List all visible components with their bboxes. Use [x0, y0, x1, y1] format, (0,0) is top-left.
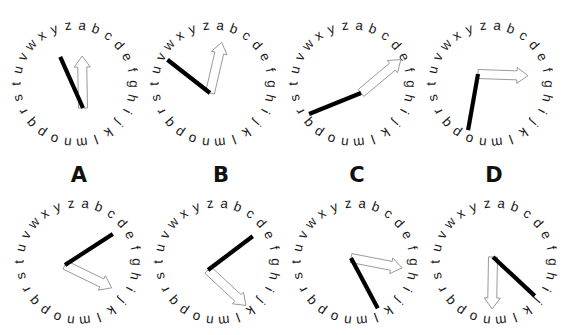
ring-letter-z: z	[202, 18, 211, 34]
ring-letter-z: z	[206, 196, 215, 212]
white-arrow-hand	[484, 257, 500, 309]
ring-letter-d: d	[530, 215, 546, 231]
ring-letter-n: n	[340, 135, 349, 151]
ring-letter-u: u	[429, 242, 445, 253]
ring-letter-f: f	[544, 244, 560, 251]
ring-letter-s: s	[152, 271, 168, 281]
figure-canvas: abcdefghijklmnopqrstuvwxyzabcdefghijklmn…	[0, 0, 568, 335]
ring-letter-d: d	[391, 215, 407, 231]
clock-option-C[interactable]: abcdefghijklmnopqrstuvwxyz	[274, 181, 436, 335]
ring-letter-e: e	[534, 50, 551, 64]
ring-letter-d: d	[114, 215, 130, 231]
ring-letter-x: x	[450, 27, 464, 43]
ring-letter-l: l	[234, 310, 242, 325]
letter-ring: abcdefghijklmnopqrstuvwxyz	[286, 18, 419, 151]
ring-letter-t: t	[286, 82, 301, 86]
ring-letter-y: y	[328, 199, 340, 216]
ring-letter-p: p	[311, 124, 326, 141]
ring-letter-t: t	[151, 260, 166, 264]
ring-letter-z: z	[64, 18, 73, 34]
ring-letter-o: o	[186, 131, 198, 148]
ring-letter-x: x	[35, 27, 49, 43]
ring-letter-x: x	[177, 205, 191, 221]
black-hand	[167, 60, 210, 93]
ring-letter-d: d	[111, 37, 127, 53]
ring-letter-o: o	[48, 131, 60, 148]
ring-letter-d: d	[526, 37, 542, 53]
ring-letter-s: s	[425, 93, 441, 103]
ring-letter-t: t	[9, 82, 24, 86]
ring-letter-q: q	[23, 115, 39, 131]
ring-letter-k: k	[516, 124, 530, 140]
ring-letter-u: u	[13, 242, 29, 253]
ring-letter-v: v	[18, 228, 35, 241]
ring-letter-u: u	[287, 64, 303, 75]
ring-letter-u: u	[152, 242, 168, 253]
ring-letter-p: p	[453, 302, 468, 319]
black-hand	[309, 93, 361, 114]
ring-letter-c: c	[382, 205, 396, 221]
ring-letter-c: c	[102, 27, 116, 43]
ring-letter-l: l	[511, 310, 519, 325]
ring-letter-w: w	[24, 214, 43, 232]
ring-letter-a: a	[493, 18, 503, 34]
letter-ring: abcdefghijklmnopqrstuvwxyz	[424, 18, 557, 151]
ring-letter-z: z	[67, 196, 76, 212]
white-arrow-hand	[206, 42, 227, 94]
clock-stimulus-2: abcdefghijklmnopqrstuvwxyz	[132, 3, 294, 165]
ring-letter-p: p	[34, 124, 49, 141]
ring-letter-j: j	[389, 116, 403, 129]
ring-letter-r: r	[18, 283, 34, 294]
white-arrow-hand	[478, 67, 528, 83]
ring-letter-k: k	[101, 124, 115, 140]
ring-letter-w: w	[159, 36, 178, 54]
ring-letter-s: s	[13, 271, 29, 281]
ring-letter-l: l	[369, 132, 377, 147]
ring-letter-x: x	[312, 27, 326, 43]
clock-face-option-D: abcdefghijklmnopqrstuvwxyz	[413, 181, 568, 335]
ring-letter-z: z	[483, 196, 492, 212]
ring-letter-s: s	[290, 271, 306, 281]
ring-letter-w: w	[21, 36, 40, 54]
options-row: abcdefghijklmnopqrstuvwxyzabcdefghijklmn…	[0, 190, 568, 335]
ring-letter-r: r	[157, 283, 173, 294]
ring-letter-n: n	[201, 135, 210, 151]
ring-letter-o: o	[51, 309, 63, 326]
clock-face-option-C: abcdefghijklmnopqrstuvwxyz	[274, 181, 436, 335]
ring-letter-m: m	[353, 134, 366, 150]
ring-letter-l: l	[92, 132, 100, 147]
clock-face-stimulus-4: abcdefghijklmnopqrstuvwxyz	[409, 3, 568, 165]
ring-letter-t: t	[12, 260, 27, 264]
ring-letter-y: y	[467, 199, 479, 216]
ring-letter-x: x	[454, 205, 468, 221]
ring-letter-c: c	[379, 27, 393, 43]
ring-letter-c: c	[521, 205, 535, 221]
ring-letter-i: i	[539, 285, 554, 295]
black-hand	[493, 257, 535, 296]
ring-letter-g: g	[541, 80, 556, 88]
ring-letter-q: q	[26, 293, 42, 309]
ring-letter-v: v	[430, 50, 447, 63]
ring-letter-u: u	[148, 64, 164, 75]
ring-letter-i: i	[535, 107, 550, 117]
ring-letter-r: r	[153, 105, 169, 116]
ring-letter-q: q	[303, 293, 319, 309]
ring-letter-p: p	[172, 124, 187, 141]
ring-letter-b: b	[232, 199, 244, 216]
ring-letter-b: b	[509, 199, 521, 216]
ring-letter-o: o	[328, 309, 340, 326]
ring-letter-k: k	[104, 302, 118, 318]
ring-letter-j: j	[115, 294, 129, 307]
ring-letter-j: j	[250, 116, 264, 129]
ring-letter-v: v	[295, 228, 312, 241]
ring-letter-z: z	[344, 196, 353, 212]
ring-letter-a: a	[358, 196, 368, 212]
ring-letter-w: w	[163, 214, 182, 232]
ring-letter-g: g	[545, 258, 560, 266]
white-arrow-hand	[63, 261, 112, 290]
letter-ring: abcdefghijklmnopqrstuvwxyz	[12, 196, 145, 329]
ring-letter-t: t	[147, 82, 162, 86]
ring-letter-l: l	[372, 310, 380, 325]
clock-option-D[interactable]: abcdefghijklmnopqrstuvwxyz	[413, 181, 568, 335]
ring-letter-t: t	[428, 260, 443, 264]
